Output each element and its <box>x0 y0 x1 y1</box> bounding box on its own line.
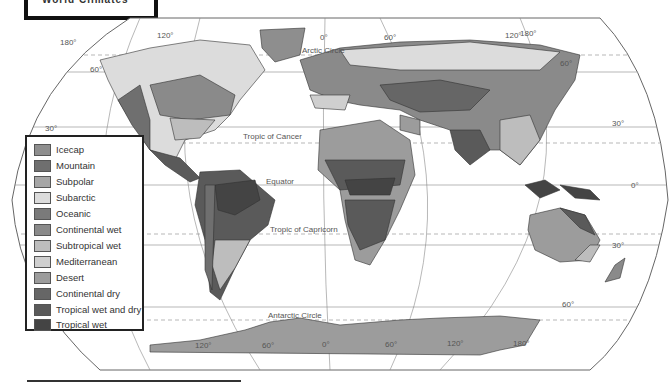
legend-swatch <box>34 319 51 331</box>
map-legend: Icecap Mountain Subpolar Subarctic Ocean… <box>25 135 144 331</box>
label-bottom-lon-120e: 120° <box>447 339 464 348</box>
legend-item-mountain: Mountain <box>34 159 95 172</box>
label-top-lon-180e: 180° <box>520 29 537 38</box>
legend-item-tropical-wet: Tropical wet <box>34 318 107 331</box>
label-tropic-of-capricorn: Tropic of Capricorn <box>270 225 338 234</box>
legend-swatch <box>34 272 51 284</box>
legend-item-subtropical-wet: Subtropical wet <box>34 239 121 252</box>
legend-item-icecap: Icecap <box>34 143 84 156</box>
legend-swatch <box>34 240 51 252</box>
legend-swatch <box>34 176 51 188</box>
label-right-lat-60s: 60° <box>562 300 574 309</box>
label-bottom-lon-60e: 60° <box>385 340 397 349</box>
legend-swatch <box>34 224 51 236</box>
label-tropic-of-cancer: Tropic of Cancer <box>243 132 302 141</box>
legend-swatch <box>34 304 51 316</box>
legend-item-desert: Desert <box>34 271 84 284</box>
label-arctic-circle: Arctic Circle <box>302 46 345 55</box>
label-top-lon-180: 180° <box>60 38 77 47</box>
legend-item-continental-wet: Continental wet <box>34 223 121 236</box>
legend-item-continental-dry: Continental dry <box>34 287 120 300</box>
legend-item-tropical-wet-and-dry: Tropical wet and dry <box>34 303 141 316</box>
label-bottom-lon-60w: 60° <box>262 341 274 350</box>
legend-item-oceanic: Oceanic <box>34 207 91 220</box>
legend-swatch <box>34 160 51 172</box>
label-top-lon-60e: 60° <box>384 33 396 42</box>
label-right-lat-30n: 30° <box>612 119 624 128</box>
legend-item-subarctic: Subarctic <box>34 191 96 204</box>
legend-item-subpolar: Subpolar <box>34 175 94 188</box>
label-antarctic-circle: Antarctic Circle <box>268 311 322 320</box>
legend-swatch <box>34 288 51 300</box>
label-right-lat-0: 0° <box>631 181 639 190</box>
label-left-lat-30: 30° <box>45 124 57 133</box>
label-bottom-lon-120w: 120° <box>195 341 212 350</box>
legend-swatch <box>34 208 51 220</box>
legend-item-mediterranean: Mediterranean <box>34 255 117 268</box>
label-right-lat-60n: 60° <box>560 59 572 68</box>
label-left-lat-60: 60° <box>90 65 102 74</box>
label-equator: Equator <box>266 177 294 186</box>
label-bottom-lon-180: 180° <box>513 339 530 348</box>
legend-swatch <box>34 256 51 268</box>
label-right-lat-30s: 30° <box>612 241 624 250</box>
legend-swatch <box>34 192 51 204</box>
legend-swatch <box>34 144 51 156</box>
label-top-lon-0: 0° <box>320 33 328 42</box>
label-bottom-lon-0: 0° <box>322 340 330 349</box>
label-top-lon-120w: 120° <box>157 31 174 40</box>
